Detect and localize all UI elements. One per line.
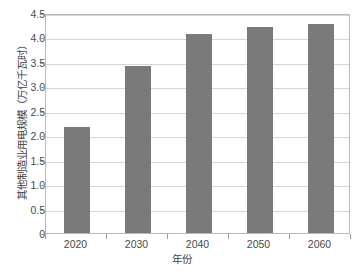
bar[interactable] <box>247 27 273 233</box>
x-tick-label: 2040 <box>168 238 228 250</box>
y-tick-label: 1.0 <box>5 180 45 191</box>
bar-chart-figure: 其他制造业用电规模（万亿千瓦时） 00.51.01.52.02.53.03.54… <box>0 0 363 277</box>
y-tick-mark <box>40 38 45 39</box>
bar[interactable] <box>186 34 212 233</box>
y-tick-label: 1.5 <box>5 155 45 166</box>
bars-layer <box>46 15 349 233</box>
y-tick-label: 3.0 <box>5 82 45 93</box>
x-tick-label: 2050 <box>229 238 289 250</box>
y-tick-label: 4.0 <box>5 33 45 44</box>
y-tick-mark <box>40 112 45 113</box>
y-tick-mark <box>40 161 45 162</box>
x-tick-label: 2030 <box>107 238 167 250</box>
plot-area <box>45 14 350 234</box>
y-tick-mark <box>40 136 45 137</box>
y-tick-label: 0 <box>5 229 45 240</box>
y-tick-mark <box>40 63 45 64</box>
x-tick-mark <box>289 234 290 239</box>
y-tick-mark <box>40 87 45 88</box>
y-tick-label: 0.5 <box>5 204 45 215</box>
x-axis-title: 年份 <box>0 251 363 266</box>
bar-slot <box>46 15 107 233</box>
y-tick-label: 2.0 <box>5 131 45 142</box>
bar-slot <box>168 15 229 233</box>
bar[interactable] <box>64 127 90 233</box>
x-tick-label: 2060 <box>290 238 350 250</box>
x-tick-mark <box>167 234 168 239</box>
x-tick-label: 2020 <box>46 238 106 250</box>
bar[interactable] <box>308 24 334 233</box>
bar[interactable] <box>125 66 151 233</box>
y-tick-label: 2.5 <box>5 106 45 117</box>
y-tick-label: 4.5 <box>5 9 45 20</box>
y-tick-mark <box>40 185 45 186</box>
x-tick-mark <box>106 234 107 239</box>
x-tick-mark <box>45 234 46 239</box>
bar-slot <box>229 15 290 233</box>
bar-slot <box>107 15 168 233</box>
x-tick-mark <box>228 234 229 239</box>
y-tick-mark <box>40 14 45 15</box>
y-tick-mark <box>40 210 45 211</box>
x-tick-mark <box>350 234 351 239</box>
bar-slot <box>290 15 350 233</box>
y-tick-label: 3.5 <box>5 57 45 68</box>
